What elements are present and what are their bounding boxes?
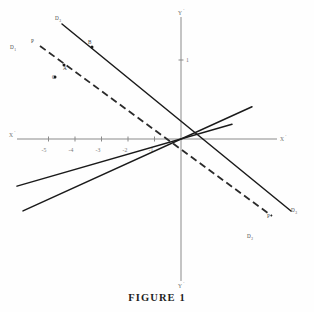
x-axis-negative-label: X	[9, 132, 13, 138]
line-label-d2-lower-sub: 2	[251, 237, 253, 241]
coordinate-plot: X ' X ' Y ' Y ' -5 -4 -3 -2 -1 1	[0, 0, 314, 312]
line-label-d1-upper-sub: 1	[14, 48, 16, 52]
tick-label-y-1: 1	[186, 57, 189, 63]
y-axis-positive-label: Y	[178, 10, 182, 16]
point-label-b: B	[88, 39, 92, 45]
figure-container: X ' X ' Y ' Y ' -5 -4 -3 -2 -1 1	[0, 0, 314, 312]
x-axis-positive-label: X	[280, 136, 284, 142]
y-axis-negative-label: Y	[178, 283, 182, 289]
line-label-d3-lower-sub: 3	[295, 211, 297, 215]
line-d1	[17, 124, 232, 186]
x-axis-negative-prime: '	[15, 131, 16, 135]
figure-caption: FIGURE 1	[0, 292, 314, 303]
data-lines-group	[17, 24, 291, 216]
line-label-p-upper: P	[31, 38, 34, 44]
y-axis-negative-prime: '	[184, 282, 185, 286]
line-d2	[23, 107, 252, 211]
line-d3	[62, 24, 291, 211]
point-label-c: C	[52, 74, 56, 80]
tick-label-x-neg3: -3	[96, 147, 101, 153]
tick-label-x-neg4: -4	[69, 147, 74, 153]
x-axis-positive-prime: '	[286, 135, 287, 139]
point-markers-group	[54, 46, 94, 79]
y-tick-labels-group: 1	[186, 57, 189, 63]
y-axis-positive-prime: '	[184, 9, 185, 13]
line-labels-group: D 3 P D 1 D 2 P D 3	[10, 15, 297, 241]
point-marker-b	[91, 46, 94, 49]
tick-label-x-neg5: -5	[42, 147, 47, 153]
point-label-a: A	[63, 65, 67, 71]
line-label-p-lower: P	[267, 213, 270, 219]
tick-label-x-neg2: -2	[123, 147, 128, 153]
line-label-d3-upper-sub: 3	[59, 19, 61, 23]
line-p-dashed	[40, 46, 272, 216]
